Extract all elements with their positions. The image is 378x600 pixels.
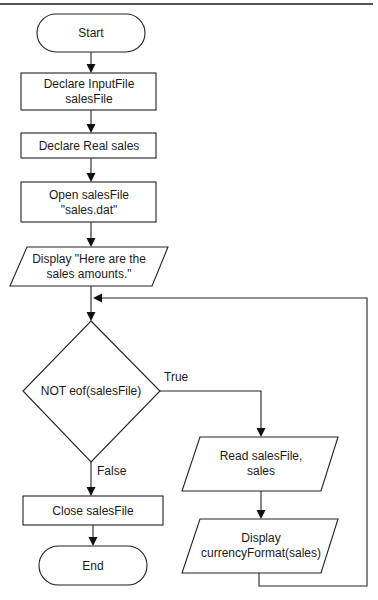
declare-file-process: Declare InputFile salesFile (21, 73, 156, 110)
declare-file-line2: salesFile (65, 92, 113, 106)
declare-sales-label: Declare Real sales (39, 139, 140, 153)
close-file-label: Close salesFile (52, 504, 134, 518)
display-heading-line1: Display "Here are the (32, 252, 146, 266)
declare-file-line1: Declare InputFile (44, 77, 135, 91)
close-file-process: Close salesFile (23, 496, 163, 525)
arrowhead-icon (87, 124, 96, 133)
read-sales-io: Read salesFile, sales (182, 437, 338, 491)
open-file-line2: "sales.dat" (61, 203, 118, 217)
end-label: End (82, 559, 103, 573)
end-terminal: End (39, 546, 147, 585)
arrowhead-icon (87, 238, 96, 247)
open-file-line1: Open salesFile (49, 188, 129, 202)
read-sales-line2: sales (247, 464, 275, 478)
arrowhead-icon (87, 312, 96, 321)
decision-label: NOT eof(salesFile) (41, 384, 141, 398)
start-terminal: Start (37, 14, 145, 52)
arrowhead-icon (87, 173, 96, 182)
display-heading-line2: sales amounts." (47, 267, 132, 281)
arrowhead-icon (257, 428, 266, 437)
display-sales-line1: Display (241, 531, 280, 545)
edge-decision-true-to-read (160, 391, 261, 429)
arrowhead-icon (89, 537, 98, 546)
read-sales-line1: Read salesFile, (220, 449, 303, 463)
arrowhead-left-icon (93, 294, 102, 303)
open-file-process: Open salesFile "sales.dat" (21, 182, 156, 222)
arrowhead-icon (87, 487, 96, 496)
arrowhead-icon (87, 64, 96, 73)
display-sales-line2: currencyFormat(sales) (201, 546, 321, 560)
flowchart: Start Declare InputFile salesFile Declar… (0, 0, 378, 600)
true-label: True (164, 370, 189, 384)
declare-sales-process: Declare Real sales (21, 133, 156, 158)
start-label: Start (78, 26, 104, 40)
arrowhead-icon (257, 510, 266, 519)
eof-decision: NOT eof(salesFile) (23, 321, 160, 462)
display-sales-io: Display currencyFormat(sales) (182, 519, 338, 573)
false-label: False (97, 464, 127, 478)
display-heading-io: Display "Here are the sales amounts." (10, 247, 168, 286)
